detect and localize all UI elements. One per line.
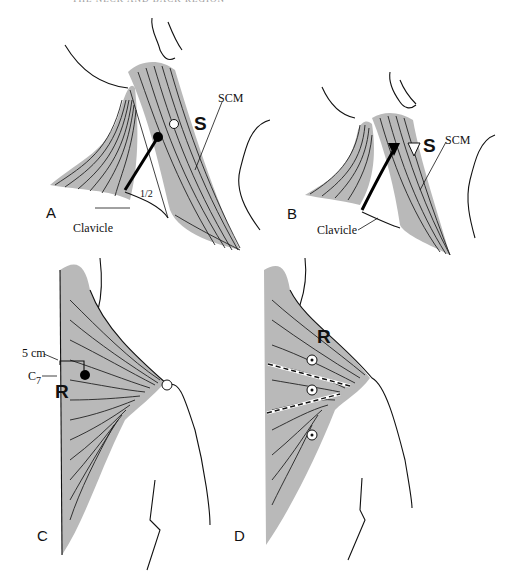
injection-point-2	[307, 385, 317, 395]
trapezius-muscle	[264, 266, 370, 545]
panel-d-label: D	[234, 527, 245, 544]
clavicle-outline	[362, 212, 400, 228]
ear-outline	[390, 72, 416, 108]
clavicle-label: Clavicle	[317, 223, 357, 237]
entry-point-dot	[153, 132, 163, 142]
jaw-outline	[322, 87, 355, 118]
vertebra-label: C	[28, 369, 36, 383]
scm-label: SCM	[218, 91, 244, 105]
trapezius-muscle	[60, 265, 165, 555]
muscle-label-s: S	[194, 113, 207, 134]
injection-point-1	[307, 355, 317, 365]
ear-outline	[152, 18, 175, 60]
muscle-label-r: R	[55, 381, 69, 402]
acromion-circle	[162, 380, 172, 390]
injection-point-3	[307, 430, 317, 440]
scalene-muscle	[50, 86, 137, 200]
panel-b-label: B	[287, 205, 297, 222]
panel-b: B S SCM Clavicle	[287, 72, 495, 255]
entry-point-dot	[80, 370, 90, 380]
anatomy-figure: A S SCM Clavicle 1/2 B S S	[0, 0, 516, 585]
panel-c: 5 cm C 7 R C	[22, 258, 210, 570]
distance-label: 5 cm	[22, 346, 46, 360]
panel-c-label: C	[37, 527, 48, 544]
panel-d: R D	[234, 258, 412, 560]
clavicle-label: Clavicle	[73, 221, 113, 235]
panel-a-label: A	[46, 204, 56, 221]
vertebra-subscript: 7	[36, 375, 41, 386]
muscle-label-r: R	[317, 326, 331, 347]
scm-label: SCM	[445, 133, 471, 147]
muscle-label-s: S	[423, 135, 436, 156]
landmark-circle	[170, 120, 179, 129]
jaw-outline	[65, 45, 128, 88]
head-outline	[300, 258, 306, 305]
panel-a: A S SCM Clavicle 1/2	[46, 18, 270, 250]
fraction-label: 1/2	[140, 188, 153, 199]
